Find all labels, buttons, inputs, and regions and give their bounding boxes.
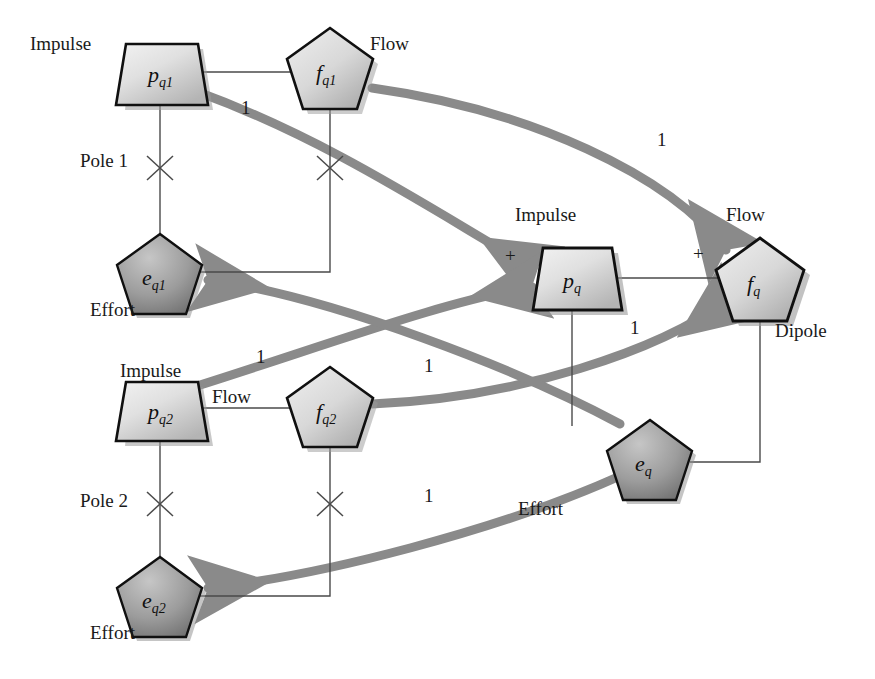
sign-plus-impulse: +: [505, 245, 516, 267]
label-impulse-dipole: Impulse: [515, 204, 576, 226]
label-flow-pole2: Flow: [212, 386, 251, 408]
pole-cross-layer: [147, 156, 343, 516]
label-effort-pole1: Effort: [90, 299, 135, 321]
node-fq2-pentagon: [287, 367, 373, 447]
diagram-svg: pq1 fq1 eq1 pq2: [0, 0, 875, 679]
node-pq1[interactable]: pq1: [116, 44, 213, 110]
curved-arrow-eq-to-eq2: [208, 476, 620, 588]
curved-arrow-pq2-to-pq: [197, 287, 532, 386]
edge-weight-fq2-fq: 1: [424, 355, 434, 377]
label-effort-pole2: Effort: [90, 622, 135, 644]
label-dipole: Dipole: [775, 320, 827, 342]
label-effort-dipole: Effort: [518, 498, 563, 520]
line-fq1-eq1: [200, 102, 330, 272]
node-fq1[interactable]: fq1: [287, 28, 378, 114]
edge-weight-pq1-pq: 1: [241, 97, 251, 119]
label-flow-pole1: Flow: [370, 33, 409, 55]
curved-arrow-layer: [197, 88, 728, 588]
diagram-canvas: pq1 fq1 eq1 pq2: [0, 0, 875, 679]
label-impulse-pole2: Impulse: [120, 360, 181, 382]
label-pole-2: Pole 2: [80, 490, 128, 512]
edge-weight-eq-eq2: 1: [424, 485, 434, 507]
edge-weight-eq-eq1: 1: [630, 317, 640, 339]
edge-weight-fq1-fq: 1: [657, 129, 667, 151]
node-fq2[interactable]: fq2: [287, 367, 378, 452]
label-flow-dipole: Flow: [726, 204, 765, 226]
node-fq1-pentagon: [287, 28, 373, 109]
label-impulse-pole1: Impulse: [30, 33, 91, 55]
node-pq-trapezoid: [533, 248, 622, 310]
node-eq-pentagon: [607, 420, 692, 500]
node-eq[interactable]: eq: [607, 420, 696, 504]
node-pq[interactable]: pq: [533, 248, 628, 315]
line-fq-eq: [690, 312, 760, 462]
sign-plus-flow: +: [693, 243, 704, 265]
node-pq2[interactable]: pq2: [116, 382, 213, 446]
label-pole-1: Pole 1: [80, 150, 128, 172]
edge-weight-pq2-pq: 1: [256, 346, 266, 368]
